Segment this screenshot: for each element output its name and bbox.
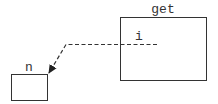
edge-get-to-n[interactable]: i <box>49 29 157 73</box>
edge-label-i: i <box>135 29 143 44</box>
node-n-box <box>12 75 48 101</box>
node-get[interactable]: get <box>121 2 207 81</box>
node-get-label: get <box>151 2 174 17</box>
node-n[interactable]: n <box>12 60 48 101</box>
node-n-label: n <box>25 60 33 75</box>
node-get-box <box>121 18 207 81</box>
edge-dashed-line <box>49 45 157 74</box>
diagram-canvas: get n i <box>0 0 218 104</box>
